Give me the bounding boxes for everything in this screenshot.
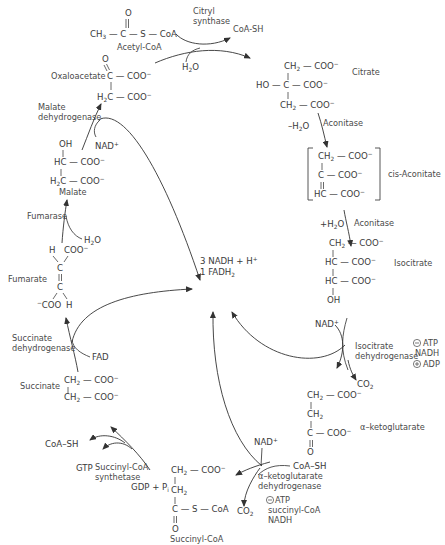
svg-text:CH2: CH2 xyxy=(307,409,323,420)
succinyl-coa-synthetase-label-2: synthetase xyxy=(95,472,140,482)
svg-text:3 NADH + H+: 3 NADH + H+ xyxy=(200,256,258,266)
svg-text:C — S — CoA: C — S — CoA xyxy=(172,504,229,514)
svg-text:CoA–SH: CoA–SH xyxy=(45,439,78,449)
fumarate-structure: H COO− C C −COO H Fumarate xyxy=(8,245,89,310)
nad-to-nadh-arc xyxy=(335,325,343,368)
svg-text:OH: OH xyxy=(327,295,340,305)
svg-text:CH2: CH2 xyxy=(171,485,187,496)
aconitase-2-label: Aconitase xyxy=(354,218,394,228)
center-fadh2: 1 FADH xyxy=(200,267,231,277)
akg-dh-regulators: ATP succinyl-CoA NADH xyxy=(266,495,320,525)
succinyl-coa-label: Succinyl-CoA xyxy=(170,534,224,544)
regulator-atp: ATP xyxy=(423,338,438,348)
svg-text:O: O xyxy=(125,8,132,18)
svg-text:1 FADH2: 1 FADH2 xyxy=(200,267,235,278)
succinyl-coa-structure: CH2 — COO− CH2 C — S — CoA O Succinyl-Co… xyxy=(170,465,229,544)
fumarase-label: Fumarase xyxy=(27,211,67,221)
succinate-dh-label-2: dehydrogenase xyxy=(12,343,75,353)
isocitrate-dh-main-arc xyxy=(343,318,348,370)
succinate-structure: CH2 — COO− CH2 — COO− Succinate xyxy=(20,375,119,403)
svg-text:CO2: CO2 xyxy=(357,379,374,390)
isocitrate-structure: CH2 — COO− HC — COO− HC — COO− OH Isocit… xyxy=(325,238,432,305)
svg-text:CH2 — COO−: CH2 — COO− xyxy=(64,392,119,403)
svg-text:CH2 — COO−: CH2 — COO− xyxy=(318,151,373,162)
oxaloacetate-structure: O C — COO− H2C — COO− Oxaloacetate xyxy=(51,54,152,103)
regulator-nadh: NADH xyxy=(415,348,439,358)
cis-aconitate-structure: CH2 — COO− C — COO− HC — COO− cis-Aconit… xyxy=(308,148,441,200)
alpha-ketoglutarate-structure: CH2 — COO− CH2 C — COO− O α–ketoglutarat… xyxy=(307,390,425,457)
svg-text:CH2 — COO−: CH2 — COO− xyxy=(307,390,362,401)
svg-text:COO−: COO− xyxy=(64,245,89,255)
center-summary: 3 NADH + H+ 1 FADH2 xyxy=(200,256,258,278)
acetyl-coa-structure: O CH3 — C — S — CoA Acetyl-CoA xyxy=(90,8,177,53)
fadh2-to-center-arrow xyxy=(72,289,192,342)
svg-text:CH2 — COO−: CH2 — COO− xyxy=(64,375,119,386)
svg-text:GTP: GTP xyxy=(76,463,93,473)
svg-text:C — COO−: C — COO− xyxy=(307,428,352,438)
h2o-in-arc xyxy=(186,48,200,62)
svg-text:+H2O: +H2O xyxy=(320,219,344,230)
isocitrate-dh-regulators: ATP NADH ADP xyxy=(413,338,440,369)
svg-text:NAD+: NAD+ xyxy=(254,437,278,447)
coa-sh-top-label: CoA-SH xyxy=(233,24,263,34)
coa-sh-out-arrow xyxy=(90,436,125,443)
regulator-succinyl-coa: succinyl-CoA xyxy=(268,505,321,515)
svg-text:H: H xyxy=(49,245,55,255)
succinate-label: Succinate xyxy=(20,381,60,391)
svg-text:OH: OH xyxy=(59,139,72,149)
acetyl-coa-label: Acetyl-CoA xyxy=(117,42,162,52)
nad-in-line xyxy=(261,448,262,466)
regulator-adp: ADP xyxy=(423,359,440,369)
svg-text:HC — COO−: HC — COO− xyxy=(314,189,365,199)
svg-text:HC — COO−: HC — COO− xyxy=(54,157,105,167)
citryl-synthase-label-2: synthase xyxy=(193,16,230,26)
oxaloacetate-to-citrate-arrow xyxy=(155,50,250,63)
fumarate-label: Fumarate xyxy=(8,274,47,284)
svg-text:–H2O: –H2O xyxy=(288,121,309,132)
svg-text:GDP + Pi: GDP + Pi xyxy=(131,482,169,493)
svg-text:CH2 — COO−: CH2 — COO− xyxy=(284,61,339,72)
fumarate-to-malate-arrow xyxy=(62,200,67,243)
svg-text:C — COO−: C — COO− xyxy=(107,71,152,81)
malate-dh-label-1: Malate xyxy=(38,102,66,112)
citrate-structure: CH2 — COO− HO — C — COO− CH2 — COO− Citr… xyxy=(256,61,380,111)
svg-text:HC — COO−: HC — COO− xyxy=(325,257,376,267)
succinyl-coa-synthetase-label-1: Succinyl-CoA xyxy=(95,462,149,472)
svg-text:H2C — COO−: H2C — COO− xyxy=(50,176,105,187)
isocitrate-label: Isocitrate xyxy=(394,258,432,268)
nad-in-malate-arc xyxy=(94,120,100,137)
coa-sh-release-arrow xyxy=(176,34,230,44)
isocitrate-dh-label-1: Isocitrate xyxy=(355,341,393,351)
svg-text:O: O xyxy=(172,524,179,534)
svg-text:CoA–SH: CoA–SH xyxy=(293,461,326,471)
svg-text:HC — COO−: HC — COO− xyxy=(325,276,376,286)
svg-text:O: O xyxy=(307,447,314,457)
svg-text:FAD: FAD xyxy=(92,352,109,362)
svg-text:H2O: H2O xyxy=(182,62,199,73)
svg-text:C: C xyxy=(57,282,63,292)
regulator-atp: ATP xyxy=(275,495,290,505)
oxaloacetate-label: Oxaloacetate xyxy=(51,71,106,81)
h2o-in-fumarase-arc xyxy=(66,216,82,239)
svg-text:HO — C — COO−: HO — C — COO− xyxy=(256,80,328,90)
citric-acid-cycle-diagram: O CH3 — C — S — CoA Acetyl-CoA Citryl sy… xyxy=(0,0,445,545)
cis-aconitate-label: cis-Aconitate xyxy=(388,169,441,179)
svg-text:C: C xyxy=(57,263,63,273)
malate-dh-label-2: dehydrogenase xyxy=(38,112,101,122)
regulator-nadh: NADH xyxy=(268,515,292,525)
svg-text:H: H xyxy=(66,300,72,310)
isocitrate-dh-label-2: dehydrogenase xyxy=(355,351,418,361)
svg-text:C — COO−: C — COO− xyxy=(318,170,363,180)
alpha-ketoglutarate-label: α–ketoglutarate xyxy=(360,422,425,432)
citrate-label: Citrate xyxy=(352,67,380,77)
svg-text:H2C — COO−: H2C — COO− xyxy=(97,92,152,103)
svg-text:CH2 — COO−: CH2 — COO− xyxy=(171,465,226,476)
malate-label: Malate xyxy=(59,187,87,197)
svg-text:CH3 — C — S — CoA: CH3 — C — S — CoA xyxy=(90,29,177,40)
center-nadh: 3 NADH + H xyxy=(200,256,253,266)
akg-dh-label-1: α–ketoglutarate xyxy=(258,471,323,481)
svg-text:H2O: H2O xyxy=(84,235,101,246)
citryl-synthase-label-1: Citryl xyxy=(193,6,215,16)
svg-text:CH2 — COO−: CH2 — COO− xyxy=(280,100,335,111)
succinate-dh-label-1: Succinate xyxy=(12,333,52,343)
